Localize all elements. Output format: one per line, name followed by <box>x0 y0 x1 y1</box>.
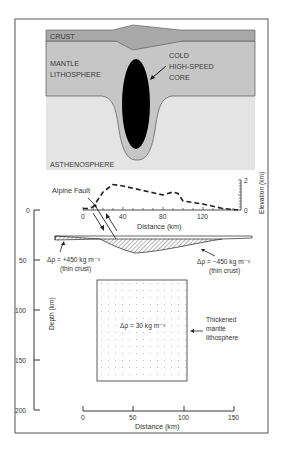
depth-tick-150: 150 <box>15 357 26 364</box>
distance-tick-50: 50 <box>129 414 137 421</box>
box-desc-3: lithosphere <box>206 334 239 342</box>
box-anomaly-label: Δρ = 30 kg m⁻³ <box>120 322 166 330</box>
depth-tick-0: 0 <box>26 207 30 214</box>
depth-tick-200: 200 <box>15 407 26 414</box>
crust-label: CRUST <box>50 32 75 41</box>
core-label-3: CORE <box>169 73 190 82</box>
east-anomaly-label-2: (thin crust) <box>209 267 240 275</box>
west-anomaly-label-2: (thin crust) <box>60 265 91 273</box>
depth-axis-label: Depth (km) <box>48 297 56 330</box>
core-label-1: COLD <box>169 51 189 60</box>
elev-y-tick-0: 0 <box>244 207 248 214</box>
depth-tick-100: 100 <box>15 307 26 314</box>
box-desc-2: mantle <box>206 325 226 332</box>
elev-x-tick-0: 0 <box>81 213 85 220</box>
elev-x-axis-label: Distance (km) <box>137 222 181 231</box>
mantle-label-1: MANTLE <box>50 59 79 68</box>
core-label-2: HIGH-SPEED <box>169 62 214 71</box>
cold-high-speed-core <box>122 59 150 149</box>
lithosphere-cross-section: CRUST MANTLE LITHOSPHERE COLD HIGH-SPEED… <box>46 25 255 170</box>
distance-axis-label: Distance (km) <box>135 422 179 431</box>
distance-tick-0: 0 <box>81 414 85 421</box>
elev-x-tick-80: 80 <box>159 213 167 220</box>
distance-tick-150: 150 <box>228 414 239 421</box>
east-anomaly-label-1: Δρ = −450 kg m⁻³ <box>197 258 251 266</box>
elev-y-axis-label: Elevation (km) <box>258 172 266 214</box>
thickened-lithosphere-box <box>97 280 187 381</box>
west-anomaly-label-1: Δρ = +450 kg m⁻³ <box>47 256 101 264</box>
mantle-label-2: LITHOSPHERE <box>50 70 101 79</box>
elev-x-tick-120: 120 <box>197 213 208 220</box>
asthenosphere-label: ASTHENOSPHERE <box>50 160 115 169</box>
elev-y-tick-2: 2 <box>244 177 248 184</box>
alpine-fault-label: Alpine Fault <box>52 186 90 195</box>
box-desc-1: Thickened <box>206 316 237 323</box>
figure-canvas: CRUST MANTLE LITHOSPHERE COLD HIGH-SPEED… <box>0 0 282 454</box>
depth-tick-50: 50 <box>19 257 27 264</box>
elev-x-tick-40: 40 <box>119 213 127 220</box>
distance-tick-100: 100 <box>178 414 189 421</box>
